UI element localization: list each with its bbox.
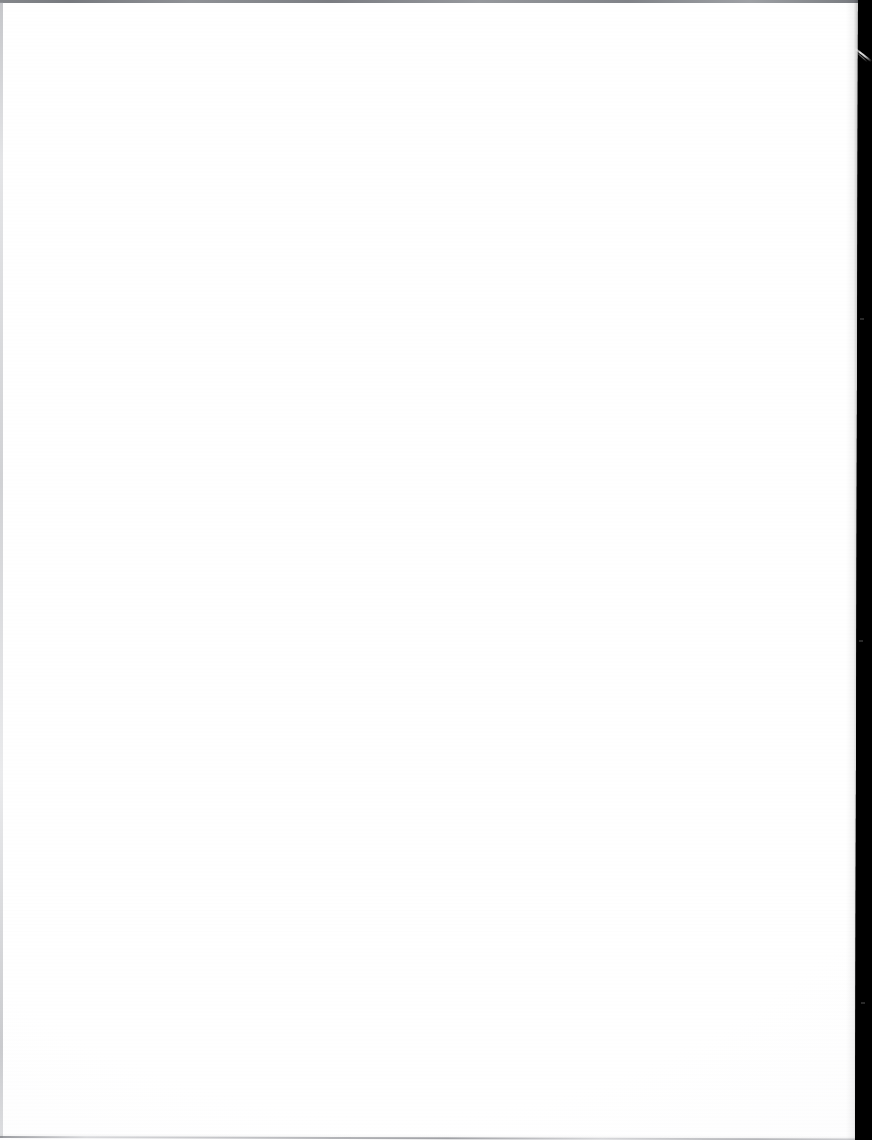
top-edge-rule [0,0,872,3]
left-margin-rule [0,2,3,1138]
page-content-area [64,76,794,1072]
paper-sheet [0,0,872,1140]
scanned-page [0,0,872,1140]
band-tick-artifact-icon [861,1002,865,1004]
band-tick-artifact-icon [859,640,863,642]
band-tick-artifact-icon [860,318,864,320]
